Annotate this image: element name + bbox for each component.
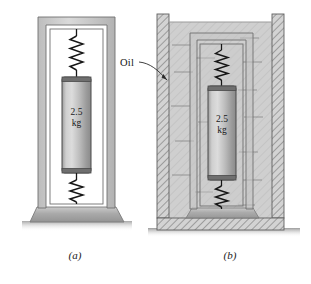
- mass-value-a: 2.5: [71, 107, 83, 117]
- mass-cylinder-a: 2.5 kg: [62, 77, 91, 173]
- mass-value-b: 2.5: [216, 114, 228, 124]
- ground-shadow-a: [22, 221, 132, 231]
- diagram-svg: 2.5 kg: [0, 0, 311, 284]
- panel-a: 2.5 kg: [22, 17, 132, 231]
- pedestal-base-b: [186, 208, 259, 218]
- caption-a: (a): [55, 249, 95, 261]
- pedestal-base-a: [30, 207, 124, 222]
- mass-cylinder-b: 2.5 kg: [208, 86, 236, 180]
- figure-container: 2.5 kg: [0, 0, 311, 284]
- panel-b: 2.5 kg: [139, 14, 300, 237]
- mass-unit-a: kg: [72, 118, 82, 128]
- mass-unit-b: kg: [217, 125, 227, 135]
- oil-label: Oil: [120, 57, 134, 68]
- caption-b: (b): [210, 249, 250, 261]
